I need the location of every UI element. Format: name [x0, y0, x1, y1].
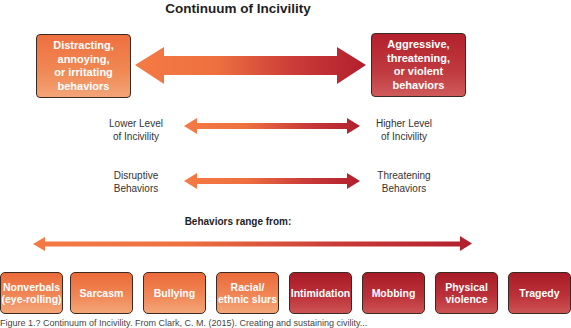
range-label: Behaviors range from: [0, 216, 476, 227]
behavior-tile-tragedy: Tragedy [508, 272, 571, 314]
behavior-tile-racial-slurs: Racial/ethnic slurs [216, 272, 279, 314]
scale-lower-level-label: Lower Levelof Incivility [96, 118, 176, 143]
behavior-tile-nonverbals: Nonverbals(eye-rolling) [0, 272, 63, 314]
behavior-tile-physical-violence: Physicalviolence [435, 272, 498, 314]
double-arrow-main-icon [135, 47, 366, 84]
double-arrow-level-icon [184, 118, 360, 134]
scale-higher-level-label: Higher Levelof Incivility [364, 118, 444, 143]
scale-threatening-label: ThreateningBehaviors [364, 170, 444, 195]
double-arrow-range-icon [33, 236, 472, 251]
behavior-tile-bullying: Bullying [143, 272, 206, 314]
figure-caption: Figure 1.? Continuum of Incivility. From… [0, 318, 367, 328]
behavior-tile-mobbing: Mobbing [362, 272, 425, 314]
behavior-tile-intimidation: Intimidation [289, 272, 352, 314]
scale-disruptive-label: DisruptiveBehaviors [96, 170, 176, 195]
behavior-tile-sarcasm: Sarcasm [70, 272, 133, 314]
double-arrow-behavior-icon [184, 173, 360, 189]
